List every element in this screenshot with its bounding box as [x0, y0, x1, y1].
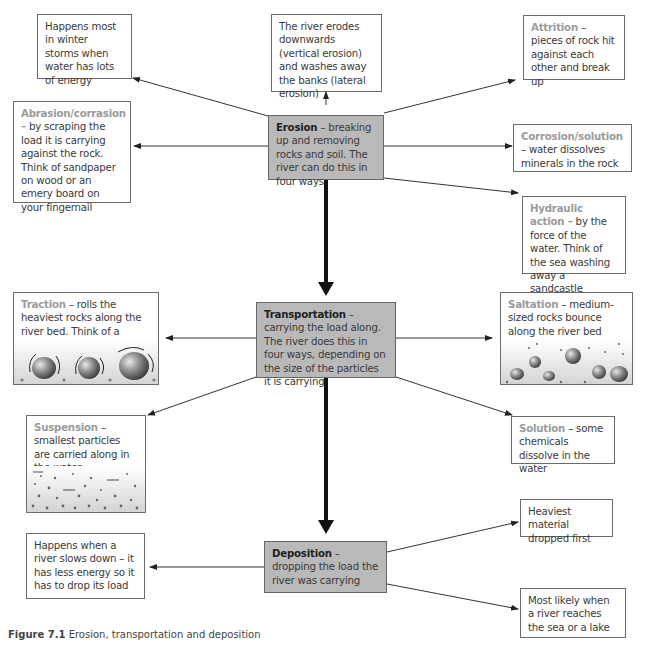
- abrasion-box: Abrasion/corrasion – by scraping the loa…: [13, 101, 131, 203]
- deposition-heaviest-note: Heaviest material dropped first: [520, 499, 613, 537]
- traction-box: Traction – rolls the heaviest rocks alon…: [13, 292, 159, 385]
- deposition-slowdown-note: Happens when a river slows down – it has…: [26, 533, 145, 599]
- deposition-likely-note: Most likely when a river reaches the sea…: [520, 588, 626, 638]
- transportation-term: Transportation: [264, 309, 346, 320]
- suspension-particles-illustration: [27, 466, 145, 512]
- figure-caption: Figure 7.1 Erosion, transportation and d…: [8, 629, 261, 640]
- hydraulic-action-box: Hydraulic action – by the force of the w…: [522, 196, 626, 274]
- suspension-term: Suspension: [34, 422, 98, 433]
- corrosion-term: Corrosion/solution: [521, 131, 623, 142]
- saltation-term: Saltation: [508, 299, 558, 310]
- saltation-rocks-illustration: [501, 340, 632, 384]
- erosion-direction-note: The river erodes downwards (vertical ero…: [271, 14, 382, 92]
- erosion-storms-note: Happens most in winter storms when water…: [37, 14, 132, 79]
- erosion-main-box: Erosion – breaking up and removing rocks…: [268, 115, 384, 180]
- deposition-main-box: Deposition – dropping the load the river…: [264, 541, 387, 593]
- deposition-term: Deposition: [272, 548, 332, 559]
- solution-box: Solution – some chemicals dissolve in th…: [511, 416, 615, 464]
- attrition-term: Attrition: [531, 22, 578, 33]
- traction-term: Traction: [21, 299, 66, 310]
- suspension-box: Suspension – smallest particles are carr…: [26, 415, 146, 513]
- attrition-box: Attrition – pieces of rock hit against e…: [523, 15, 625, 80]
- saltation-box: Saltation – medium-sized rocks bounce al…: [500, 292, 633, 385]
- corrosion-box: Corrosion/solution – water dissolves min…: [513, 124, 632, 172]
- transportation-main-box: Transportation – carrying the load along…: [256, 302, 396, 378]
- figure-label: Figure 7.1: [8, 629, 65, 640]
- traction-rocks-illustration: [14, 340, 158, 384]
- erosion-term: Erosion: [276, 122, 317, 133]
- solution-term: Solution: [519, 423, 565, 434]
